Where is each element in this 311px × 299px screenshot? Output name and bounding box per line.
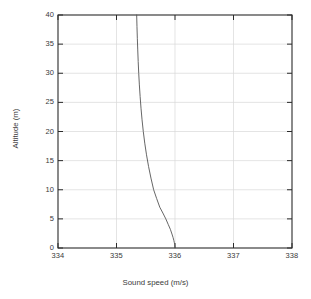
- x-tick-label: 338: [277, 252, 307, 260]
- sound-speed-altitude-chart: 0510152025303540 334335336337338 Sound s…: [0, 0, 311, 299]
- y-tick-label: 5: [30, 215, 54, 223]
- y-axis-title: Altitude (m): [11, 89, 20, 169]
- x-tick-label: 336: [160, 252, 190, 260]
- x-tick-label: 337: [219, 252, 249, 260]
- y-tick-label: 15: [30, 157, 54, 165]
- y-tick-label: 20: [30, 128, 54, 136]
- y-tick-label: 35: [30, 40, 54, 48]
- x-axis-title: Sound speed (m/s): [0, 278, 311, 287]
- y-tick-label: 10: [30, 186, 54, 194]
- x-tick-label: 334: [43, 252, 73, 260]
- y-tick-label: 0: [30, 244, 54, 252]
- y-tick-label: 40: [30, 11, 54, 19]
- x-tick-label: 335: [102, 252, 132, 260]
- y-tick-label: 30: [30, 69, 54, 77]
- y-tick-label: 25: [30, 98, 54, 106]
